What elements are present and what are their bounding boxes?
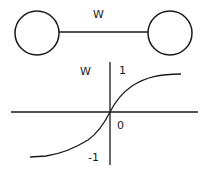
input-neuron-circle [15,11,59,55]
diagram-canvas [0,0,209,173]
tick-label-origin: 0 [117,120,124,131]
tick-label-top: 1 [119,65,126,76]
tick-label-bottom: -1 [88,152,99,163]
y-axis-label: W [80,66,91,77]
weight-label: W [93,9,104,20]
output-neuron-circle [148,11,192,55]
sigmoid-curve [30,74,181,157]
